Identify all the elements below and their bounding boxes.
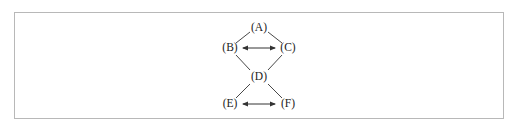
edge-a-b (236, 32, 250, 43)
edge-b-d (236, 55, 250, 70)
diagram-edges (0, 0, 517, 130)
node-c: (C) (280, 42, 295, 54)
node-d: (D) (251, 71, 267, 83)
edge-c-d (268, 55, 282, 70)
node-a: (A) (251, 22, 267, 34)
edge-d-f (268, 84, 282, 98)
edge-d-e (236, 84, 250, 98)
node-b: (B) (222, 42, 237, 54)
node-f: (F) (281, 98, 295, 110)
node-e: (E) (223, 98, 238, 110)
